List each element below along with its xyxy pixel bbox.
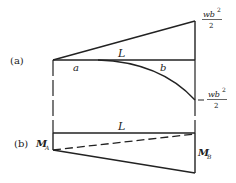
moment-diagram: (a) L a b wb 2 2 wb 2 2 (b) L M A M B [0, 0, 236, 183]
right-moment-label: M B [197, 147, 212, 160]
part-b-bottom-slope [53, 150, 195, 173]
svg-text:A: A [44, 144, 50, 151]
part-b-span-label: L [117, 120, 125, 133]
svg-text:2: 2 [222, 86, 226, 93]
part-a-segment-b: b [160, 62, 166, 73]
svg-text:wb: wb [203, 10, 215, 19]
svg-text:B: B [206, 153, 212, 160]
svg-text:2: 2 [214, 102, 218, 110]
part-a-parabolic-curve [98, 60, 195, 100]
part-b-dashed-closing-line [53, 134, 195, 150]
svg-text:2: 2 [209, 22, 213, 30]
part-b-diagram [53, 133, 195, 173]
left-moment-label: M A [35, 138, 50, 151]
part-a-span-label: L [117, 47, 125, 60]
part-a-label: (a) [10, 55, 24, 66]
svg-text:wb: wb [208, 90, 220, 99]
part-a-diagram [53, 21, 204, 100]
part-a-top-value: wb 2 2 [202, 6, 222, 30]
part-a-segment-a: a [73, 62, 79, 73]
svg-text:2: 2 [217, 6, 221, 13]
part-b-label: (b) [14, 138, 28, 149]
part-a-bottom-value: wb 2 2 [207, 86, 227, 110]
